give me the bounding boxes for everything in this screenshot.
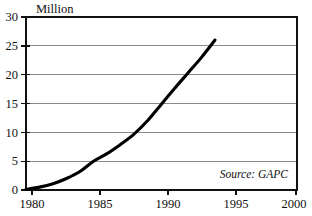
ytick-label-0: 0 <box>12 183 18 197</box>
xtick-label-1980: 1980 <box>20 197 45 211</box>
ytick-label-15: 15 <box>6 97 19 111</box>
ytick-label-25: 25 <box>6 39 19 53</box>
xtick-label-1990: 1990 <box>156 197 181 211</box>
xtick-label-1995: 1995 <box>224 197 249 211</box>
xtick-label-1985: 1985 <box>88 197 113 211</box>
chart-unit-title: Million <box>36 2 74 16</box>
chart-container: 0 5 10 15 20 25 30 1980 1985 1990 1995 2… <box>0 0 312 216</box>
line-chart: 0 5 10 15 20 25 30 1980 1985 1990 1995 2… <box>0 0 312 216</box>
source-annotation: Source: GAPC <box>220 168 289 180</box>
data-series-line <box>26 40 215 189</box>
ytick-label-5: 5 <box>12 154 18 168</box>
ytick-label-20: 20 <box>6 68 19 82</box>
ytick-label-30: 30 <box>6 10 19 24</box>
xtick-label-2000: 2000 <box>282 197 307 211</box>
ytick-label-10: 10 <box>6 126 19 140</box>
